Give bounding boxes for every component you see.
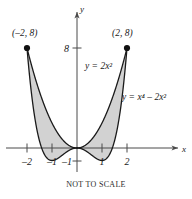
- y-tick-label--1: –1: [61, 156, 72, 167]
- x-tick-label-1: 1: [100, 156, 105, 167]
- endpoint-dot-right: [124, 45, 130, 51]
- curve-label-quartic: y = x⁴ – 2x²: [121, 92, 166, 102]
- figure-container: y x –2 –1 1 2 8 –1 (–2, 8) (2, 8): [0, 0, 192, 199]
- x-tick-label-2: 2: [125, 156, 130, 167]
- function-plot: y x –2 –1 1 2 8 –1 (–2, 8) (2, 8): [0, 0, 192, 199]
- figure-caption: NOT TO SCALE: [0, 180, 192, 189]
- x-axis-label: x: [181, 144, 186, 154]
- y-axis-label: y: [79, 4, 84, 14]
- curve-label-parabola: y = 2x²: [84, 61, 112, 71]
- x-tick-label--2: –2: [21, 156, 32, 167]
- point-label-left: (–2, 8): [12, 28, 37, 39]
- y-tick-label-8: 8: [64, 43, 69, 54]
- endpoint-dot-left: [24, 45, 30, 51]
- x-tick-label--1: –1: [46, 156, 57, 167]
- point-label-right: (2, 8): [112, 28, 133, 39]
